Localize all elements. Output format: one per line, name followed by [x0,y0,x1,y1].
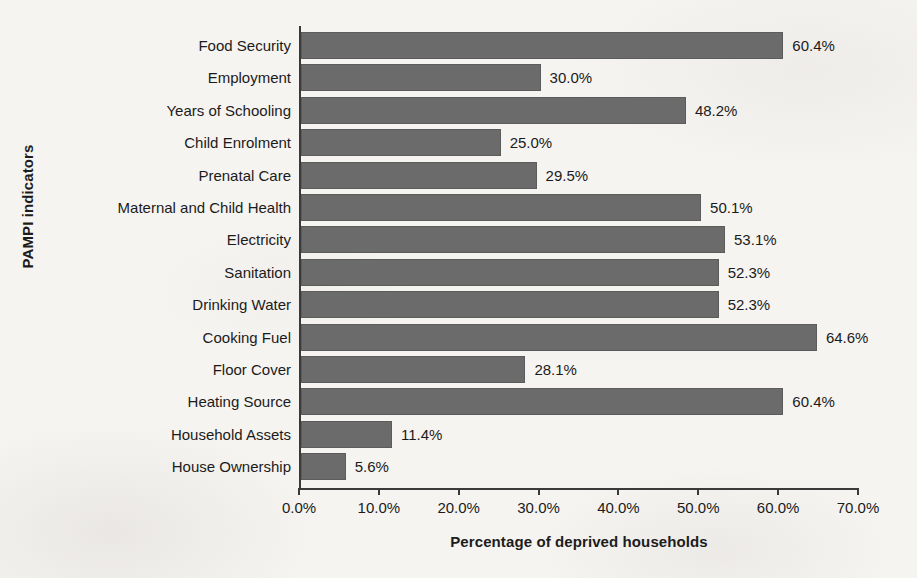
bar [301,421,392,448]
bar [301,259,719,286]
bar [301,388,783,415]
bar-value-label: 11.4% [392,421,442,448]
bar [301,97,686,124]
category-label: Prenatal Care [198,162,299,189]
category-label: Years of Schooling [166,97,299,124]
plot-area: 0.0%10.0%20.0%30.0%40.0%50.0%60.0%70.0% … [299,26,858,488]
x-tick [458,488,460,495]
category-label: Heating Source [188,388,299,415]
category-label: Food Security [198,32,299,59]
bar-value-label: 53.1% [725,226,777,253]
category-label: Drinking Water [192,291,299,318]
chart-figure: PAMPI indicators 0.0%10.0%20.0%30.0%40.0… [0,0,917,578]
bar [301,226,725,253]
bar [301,453,346,480]
category-label: Floor Cover [213,356,299,383]
bar [301,32,783,59]
y-axis-line [299,26,301,488]
x-tick-label: 70.0% [818,499,898,516]
category-label: Maternal and Child Health [118,194,299,221]
bar-value-label: 48.2% [686,97,738,124]
x-tick-label: 60.0% [738,499,818,516]
category-label: Electricity [227,226,299,253]
bar-value-label: 29.5% [537,162,589,189]
x-tick [538,488,540,495]
category-label: Employment [208,64,299,91]
category-label: Household Assets [171,421,299,448]
x-tick-label: 30.0% [499,499,579,516]
x-tick [777,488,779,495]
bar-value-label: 60.4% [783,32,835,59]
bar [301,356,525,383]
x-tick [378,488,380,495]
x-tick [298,488,300,495]
category-label: Child Enrolment [184,129,299,156]
bar [301,129,501,156]
bar-value-label: 28.1% [525,356,577,383]
category-label: Cooking Fuel [203,324,299,351]
bar [301,291,719,318]
category-label: Sanitation [224,259,299,286]
bar-value-label: 52.3% [719,291,771,318]
x-axis-title: Percentage of deprived households [299,533,859,550]
x-tick [697,488,699,495]
bar-value-label: 30.0% [541,64,593,91]
x-tick-label: 20.0% [419,499,499,516]
category-label: House Ownership [172,453,299,480]
y-axis-title: PAMPI indicators [19,127,36,287]
bar-value-label: 60.4% [783,388,835,415]
bar [301,64,541,91]
bar [301,194,701,221]
x-tick-label: 10.0% [339,499,419,516]
bar [301,324,817,351]
bar-value-label: 50.1% [701,194,753,221]
x-tick-label: 40.0% [578,499,658,516]
bar-value-label: 64.6% [817,324,869,351]
x-tick [617,488,619,495]
x-tick-label: 50.0% [658,499,738,516]
bar-value-label: 25.0% [501,129,553,156]
bar-value-label: 5.6% [346,453,389,480]
x-tick [857,488,859,495]
x-axis-line [299,488,859,490]
bar [301,162,537,189]
x-tick-label: 0.0% [259,499,339,516]
bar-value-label: 52.3% [719,259,771,286]
